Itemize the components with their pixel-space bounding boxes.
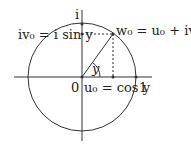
origin-point [81,76,84,79]
real-proj-point [112,76,115,79]
angle-label: y [92,62,99,75]
imag-axis-label: i [75,8,79,21]
one-point [135,76,138,79]
one-label: 1 [139,81,147,94]
imag-point-label: iv₀ = i sin y [18,28,93,41]
w0-point [112,33,115,36]
origin-label: 0 [71,81,79,94]
point-label: w₀ = u₀ + iv₀ [116,24,191,37]
i-point [81,23,84,26]
